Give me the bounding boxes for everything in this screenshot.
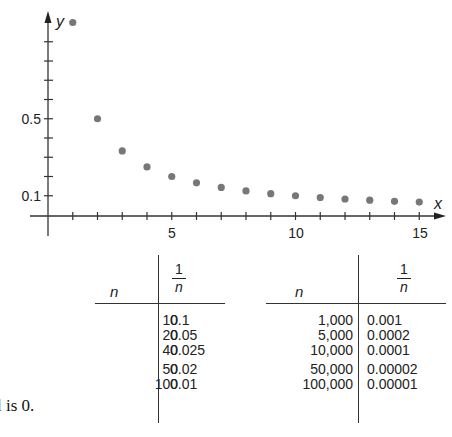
- x-axis-arrow-icon: [434, 213, 446, 220]
- data-point: [366, 197, 373, 204]
- x-axis-label: x: [433, 195, 443, 212]
- data-point: [391, 198, 398, 205]
- table-cell-inverse: 0.02: [170, 361, 197, 377]
- table-cell-n: 100,000: [302, 376, 353, 392]
- y-tick-label-0.5: 0.5: [22, 111, 42, 127]
- table-right: n 1 n 1,0000.0015,0000.000210,0000.00015…: [270, 255, 450, 425]
- x-tick-label-5: 5: [168, 225, 176, 241]
- y-axis-label: y: [55, 13, 65, 30]
- data-point: [69, 19, 76, 26]
- table-cell-n: 1,000: [318, 312, 353, 328]
- data-point: [218, 184, 225, 191]
- table-cell-inverse: 0.05: [170, 327, 197, 343]
- data-point: [292, 192, 299, 199]
- data-points: [69, 19, 423, 206]
- x-tick-label-10: 10: [288, 225, 304, 241]
- data-point: [119, 147, 126, 154]
- y-axis-arrow-icon: [45, 11, 52, 23]
- data-point: [94, 115, 101, 122]
- table-cell-inverse: 0.1: [170, 312, 189, 328]
- data-point: [193, 179, 200, 186]
- table-cell-inverse: 0.00001: [367, 376, 418, 392]
- table-cell-n: 50,000: [310, 361, 353, 377]
- y-tick-label-0.1: 0.1: [22, 188, 42, 204]
- data-point: [341, 195, 348, 202]
- axes: [30, 20, 436, 236]
- table-cell-inverse: 0.01: [170, 376, 197, 392]
- data-point: [168, 173, 175, 180]
- data-point: [416, 199, 423, 206]
- table-left-rows: 100.1200.05400.025500.021000.01: [100, 255, 240, 425]
- data-point: [267, 190, 274, 197]
- scatter-plot: y x 5 10 15 0.1 0.5: [0, 0, 452, 250]
- table-cell-inverse: 0.025: [170, 342, 205, 358]
- table-cell-inverse: 0.0002: [367, 327, 410, 343]
- table-cell-inverse: 0.0001: [367, 342, 410, 358]
- table-cell-n: 10,000: [310, 342, 353, 358]
- table-left: n 1 n 100.1200.05400.025500.021000.01: [100, 255, 240, 425]
- table-cell-n: 5,000: [318, 327, 353, 343]
- data-point: [317, 194, 324, 201]
- table-right-rows: 1,0000.0015,0000.000210,0000.000150,0000…: [270, 255, 450, 425]
- data-point: [143, 163, 150, 170]
- table-cell-inverse: 0.001: [367, 312, 402, 328]
- table-cell-inverse: 0.00002: [367, 361, 418, 377]
- data-point: [242, 187, 249, 194]
- caption-text: l is 0.: [0, 396, 34, 416]
- x-tick-label-15: 15: [412, 225, 428, 241]
